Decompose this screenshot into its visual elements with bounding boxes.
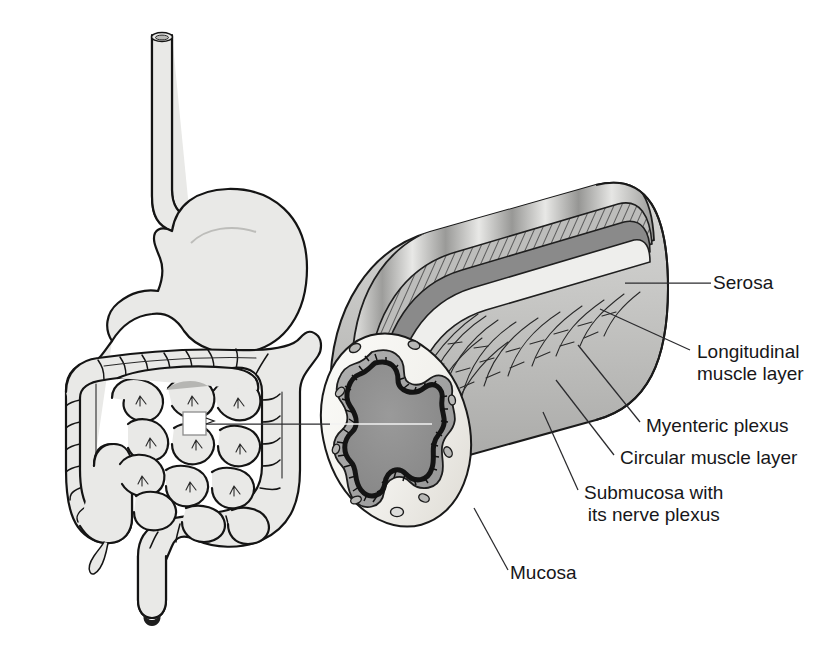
digestive-tract-overview	[66, 33, 321, 627]
leader-mucosa	[474, 508, 508, 570]
label-serosa-line-1: Serosa	[713, 272, 773, 294]
label-longitudinal-muscle-layer-line-1: Longitudinal	[697, 341, 804, 363]
stomach	[107, 189, 307, 353]
magnification-callout-box[interactable]	[183, 412, 206, 435]
callout-arrow-icon	[206, 418, 214, 424]
rectum	[138, 556, 166, 626]
label-circular-muscle-layer: Circular muscle layer	[620, 447, 797, 469]
figure-canvas	[0, 0, 834, 648]
label-longitudinal-muscle-layer-line-2: muscle layer	[697, 363, 804, 385]
label-mucosa: Mucosa	[510, 562, 577, 584]
label-mucosa-line-1: Mucosa	[510, 562, 577, 584]
label-circular-muscle-layer-line-1: Circular muscle layer	[620, 447, 797, 469]
small-intestine	[112, 366, 269, 544]
anatomy-figure: Serosa Longitudinal muscle layer Myenter…	[0, 0, 834, 648]
label-serosa: Serosa	[713, 272, 773, 294]
label-submucosa-line-1: Submucosa with	[584, 482, 723, 504]
label-myenteric-plexus: Myenteric plexus	[646, 415, 789, 437]
label-myenteric-plexus-line-1: Myenteric plexus	[646, 415, 789, 437]
label-longitudinal-muscle-layer: Longitudinal muscle layer	[697, 341, 804, 385]
label-submucosa-with-its-nerve-plexus: Submucosa with its nerve plexus	[584, 482, 723, 526]
esophagus	[152, 33, 191, 232]
label-submucosa-line-2: its nerve plexus	[584, 504, 723, 526]
